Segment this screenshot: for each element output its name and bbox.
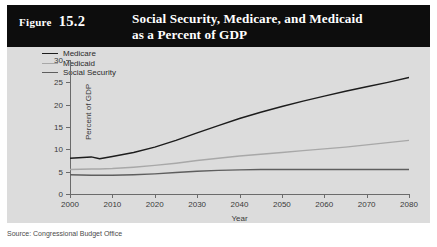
y-tick-label: 20: [54, 100, 63, 109]
x-tick-label: 2080: [400, 200, 418, 209]
legend-item-medicare: Medicare: [42, 49, 116, 59]
y-tick: [66, 105, 70, 106]
x-tick-label: 2000: [61, 200, 79, 209]
y-tick-label: 30: [54, 56, 63, 65]
x-tick: [409, 194, 410, 198]
figure-label: Figure15.2: [19, 13, 85, 30]
legend-label: Medicare: [63, 49, 96, 58]
y-tick: [66, 82, 70, 83]
figure-title-line2: as a Percent of GDP: [132, 27, 422, 43]
figure-title: Social Security, Medicare, and Medicaid …: [132, 11, 422, 43]
series-line-medicare: [70, 77, 409, 158]
source-note: Source: Congressional Budget Office: [7, 230, 430, 242]
x-tick: [240, 194, 241, 198]
x-tick-label: 2020: [146, 200, 164, 209]
x-tick-label: 2030: [188, 200, 206, 209]
y-tick: [66, 149, 70, 150]
y-tick: [66, 172, 70, 173]
plot-area: Percent of GDP Year 05101520253020002010…: [70, 60, 409, 194]
x-axis-title: Year: [70, 214, 409, 223]
y-tick: [66, 127, 70, 128]
legend-swatch: [42, 72, 58, 73]
x-tick-label: 2040: [231, 200, 249, 209]
y-tick-label: 10: [54, 145, 63, 154]
figure-title-line1: Social Security, Medicare, and Medicaid: [132, 11, 422, 27]
x-tick-label: 2060: [315, 200, 333, 209]
y-tick-label: 5: [59, 167, 63, 176]
y-tick: [66, 60, 70, 61]
x-tick-label: 2070: [358, 200, 376, 209]
figure-container: Figure15.2 Social Security, Medicare, an…: [0, 0, 437, 247]
x-tick-label: 2050: [273, 200, 291, 209]
figure-number: 15.2: [59, 13, 86, 29]
x-tick: [197, 194, 198, 198]
x-tick: [367, 194, 368, 198]
series-line-social-security: [70, 169, 409, 175]
y-tick-label: 15: [54, 123, 63, 132]
x-tick: [282, 194, 283, 198]
chart-curves: [70, 60, 409, 194]
y-tick-label: 0: [59, 190, 63, 199]
chart-panel: MedicareMedicaidSocial Security Percent …: [7, 47, 430, 223]
x-tick-label: 2010: [103, 200, 121, 209]
x-tick: [155, 194, 156, 198]
x-tick: [324, 194, 325, 198]
figure-word: Figure: [19, 16, 52, 28]
x-tick: [70, 194, 71, 198]
x-tick: [112, 194, 113, 198]
y-tick-label: 25: [54, 78, 63, 87]
legend-swatch: [42, 53, 58, 54]
figure-header: Figure15.2 Social Security, Medicare, an…: [7, 5, 430, 47]
